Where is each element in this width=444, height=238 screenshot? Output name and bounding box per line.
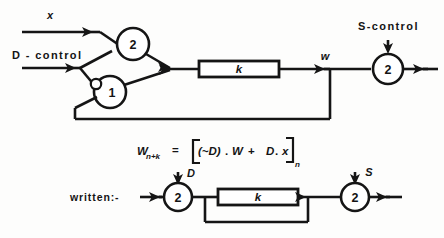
equation-group: W n+k = (~D) . W + D . x n [137, 138, 300, 169]
inversion-bubble-icon [91, 79, 101, 89]
top-input-s-control-label: S-control [358, 20, 419, 32]
equation-equals: = [172, 144, 179, 156]
equation-bracket-sub: n [295, 160, 300, 169]
bottom-gate-d-2: 2 [164, 183, 192, 211]
equation-term-w: W [232, 145, 244, 157]
equation-dot-2: . [275, 145, 278, 157]
top-delay-box: k [199, 61, 279, 77]
figure-canvas: 2 1 k [0, 0, 444, 238]
top-signal-w-label: w [321, 50, 331, 62]
equation-dot-1: . [225, 145, 228, 157]
bottom-delay-box-label: k [255, 191, 262, 203]
top-input-s-control-wire [383, 40, 393, 54]
equation-plus: + [248, 145, 255, 157]
top-input-d-control-label: D - control [12, 49, 82, 61]
bottom-output-wire [369, 192, 402, 202]
equation-term-x: x [281, 145, 289, 157]
top-gate-or-1-label: 1 [109, 86, 116, 100]
bottom-delay-box: k [218, 189, 298, 205]
top-input-x-label: x [46, 9, 54, 21]
equation-term-d: D [266, 145, 274, 157]
top-gate-and-2-label: 2 [130, 38, 137, 52]
block-diagram-svg: 2 1 k [0, 0, 444, 238]
top-box-output-wire [279, 64, 371, 74]
top-delay-box-label: k [236, 63, 243, 75]
equation-term-not-d: (~D) [198, 145, 221, 157]
bottom-input-d-label: D [187, 167, 195, 179]
top-output-wire [403, 64, 438, 74]
bottom-input-s-label: S [365, 166, 373, 178]
top-gate-and-2: 2 [117, 28, 149, 60]
bottom-prefix-label: written:- [69, 191, 120, 203]
bottom-gate-d-2-label: 2 [175, 191, 182, 205]
top-gate-s-2: 2 [373, 54, 403, 84]
top-gate-or-1-output-wire [124, 65, 170, 85]
bottom-gate-s-2-label: 2 [352, 191, 359, 205]
bottom-box-output-wire [295, 192, 341, 202]
top-input-x-wire [22, 27, 122, 47]
equation-lhs-sub: n+k [146, 152, 161, 161]
top-gate-s-2-label: 2 [385, 63, 392, 77]
top-gate-or-1: 1 [91, 76, 126, 108]
bottom-gate-s-2: 2 [341, 183, 369, 211]
